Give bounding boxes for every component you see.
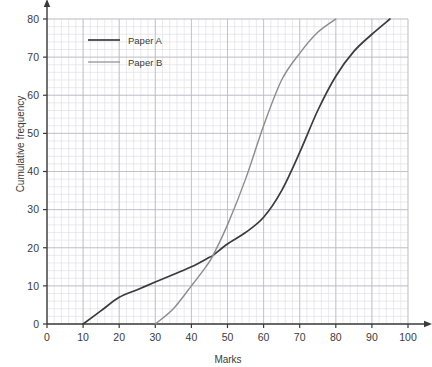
y-axis-label-wrap: Cumulative frequency bbox=[10, 74, 28, 214]
svg-text:10: 10 bbox=[27, 280, 39, 292]
svg-text:70: 70 bbox=[27, 51, 39, 63]
x-axis-label: Marks bbox=[214, 354, 241, 365]
chart-canvas: 010203040506070809010001020304050607080 … bbox=[0, 0, 432, 367]
svg-text:80: 80 bbox=[27, 13, 39, 25]
y-axis-label: Cumulative frequency bbox=[15, 96, 26, 193]
svg-text:20: 20 bbox=[113, 331, 125, 343]
svg-text:30: 30 bbox=[149, 331, 161, 343]
svg-text:40: 40 bbox=[27, 165, 39, 177]
svg-text:30: 30 bbox=[27, 203, 39, 215]
svg-text:20: 20 bbox=[27, 242, 39, 254]
svg-text:90: 90 bbox=[366, 331, 378, 343]
svg-text:50: 50 bbox=[222, 331, 234, 343]
svg-text:60: 60 bbox=[27, 89, 39, 101]
chart-legend: Paper APaper B bbox=[88, 35, 162, 68]
svg-text:0: 0 bbox=[44, 331, 50, 343]
svg-text:80: 80 bbox=[330, 331, 342, 343]
svg-text:40: 40 bbox=[186, 331, 198, 343]
x-axis-label-wrap: Marks bbox=[178, 349, 278, 367]
svg-text:Paper A: Paper A bbox=[128, 35, 162, 46]
svg-text:0: 0 bbox=[33, 318, 39, 330]
svg-text:Paper B: Paper B bbox=[128, 57, 162, 68]
svg-text:50: 50 bbox=[27, 127, 39, 139]
svg-text:60: 60 bbox=[258, 331, 270, 343]
cumulative-frequency-chart: 010203040506070809010001020304050607080 … bbox=[0, 0, 432, 367]
svg-text:100: 100 bbox=[399, 331, 417, 343]
svg-text:70: 70 bbox=[294, 331, 306, 343]
svg-text:10: 10 bbox=[77, 331, 89, 343]
